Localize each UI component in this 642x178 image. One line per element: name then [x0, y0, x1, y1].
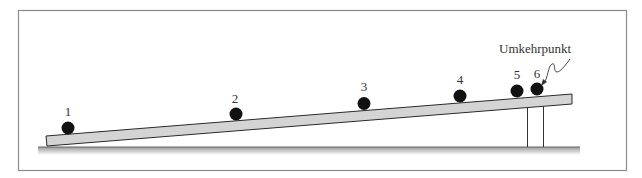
ground: [38, 147, 580, 155]
ball-1: [62, 122, 75, 135]
ball-3: [358, 97, 371, 110]
label-6: 6: [534, 66, 541, 81]
arrow-icon: [541, 59, 570, 86]
label-4: 4: [457, 72, 464, 87]
label-1: 1: [65, 104, 72, 119]
ball-5: [511, 85, 524, 98]
diagram-canvas: 1 2 3 4 5 6 Umkehrpunkt: [0, 0, 642, 178]
ball-4: [454, 90, 467, 103]
label-5: 5: [514, 67, 521, 82]
label-3: 3: [361, 79, 368, 94]
ball-2: [230, 108, 243, 121]
label-2: 2: [232, 91, 239, 106]
inclined-ramp: [46, 94, 572, 146]
turning-point-label: Umkehrpunkt: [499, 41, 572, 56]
ramp-support: [528, 102, 544, 147]
